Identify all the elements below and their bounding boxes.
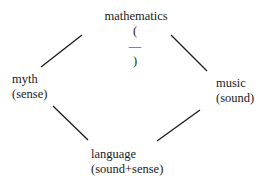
node-language: language (sound+sense) <box>91 147 163 177</box>
node-myth-sub: (sense) <box>12 87 47 102</box>
node-mathematics: mathematics ( — ) <box>88 9 184 69</box>
node-myth: myth (sense) <box>12 72 47 102</box>
node-mathematics-label: mathematics <box>88 9 184 24</box>
edge-language-music <box>157 110 200 141</box>
node-music: music (sound) <box>216 76 254 106</box>
node-language-sub: (sound+sense) <box>91 162 163 177</box>
dash: — <box>95 39 175 54</box>
node-music-sub: (sound) <box>216 91 254 106</box>
node-language-label: language <box>91 147 163 162</box>
diagram-canvas: mathematics ( — ) myth (sense) music (so… <box>0 0 269 185</box>
node-music-label: music <box>216 76 254 91</box>
node-myth-label: myth <box>12 72 47 87</box>
node-mathematics-sub: ( — ) <box>95 24 175 69</box>
open-paren: ( <box>95 24 175 39</box>
edge-myth-mathematics <box>41 35 82 67</box>
edge-myth-language <box>53 106 88 140</box>
close-paren: ) <box>95 54 175 69</box>
